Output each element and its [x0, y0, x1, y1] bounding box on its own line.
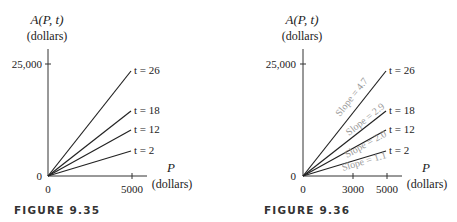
y-tick-label-0: 0 [291, 170, 297, 182]
y-tick-label-0: 0 [37, 170, 43, 182]
figure-9-35: A(P, t) (dollars) 25,000 0 0 5000 P (dol… [12, 12, 193, 216]
x-axis-label: P [421, 160, 430, 175]
x-axis-units: (dollars) [152, 177, 193, 191]
line-t2 [48, 151, 131, 176]
label-t12: t = 12 [134, 123, 160, 135]
y-axis-units: (dollars) [282, 29, 323, 43]
y-axis-units: (dollars) [27, 29, 68, 43]
x-tick-label-0: 0 [300, 183, 306, 195]
figures-canvas: A(P, t) (dollars) 25,000 0 0 5000 P (dol… [0, 0, 457, 222]
label-t18: t = 18 [134, 104, 160, 116]
x-axis-units: (dollars) [407, 177, 448, 191]
y-tick-label-25000: 25,000 [12, 58, 43, 70]
y-axis-label: A(P, t) [285, 12, 319, 27]
figure-caption: FIGURE 9.36 [264, 204, 350, 216]
x-tick-label-5000: 5000 [121, 183, 144, 195]
figure-caption: FIGURE 9.35 [14, 204, 100, 216]
label-t18: t = 18 [389, 104, 415, 116]
label-t2: t = 2 [134, 144, 154, 156]
figure-9-36: A(P, t) (dollars) 25,000 0 0 3000 5000 P… [264, 12, 447, 216]
line-t12 [48, 130, 131, 176]
x-tick-label-5000: 5000 [376, 183, 399, 195]
label-t2: t = 2 [389, 144, 409, 156]
y-axis-label: A(P, t) [30, 12, 64, 27]
y-tick-label-25000: 25,000 [266, 58, 297, 70]
line-t26 [48, 71, 131, 176]
label-t12: t = 12 [389, 123, 415, 135]
x-tick-label-3000: 3000 [342, 183, 365, 195]
label-t26: t = 26 [134, 64, 160, 76]
x-axis-label: P [166, 160, 175, 175]
x-tick-label-0: 0 [45, 183, 51, 195]
label-t26: t = 26 [389, 64, 415, 76]
line-t18 [48, 111, 131, 176]
